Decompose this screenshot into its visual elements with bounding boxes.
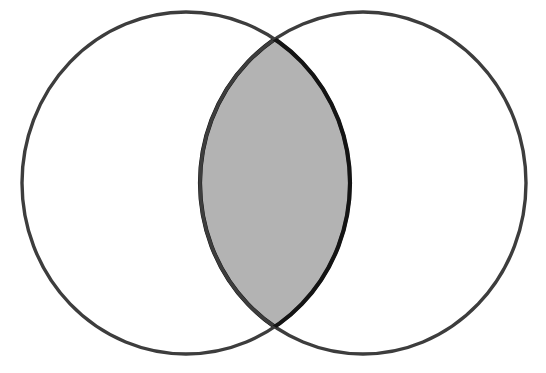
venn-diagram-canvas [0, 0, 546, 373]
venn-diagram-figure [0, 0, 546, 373]
